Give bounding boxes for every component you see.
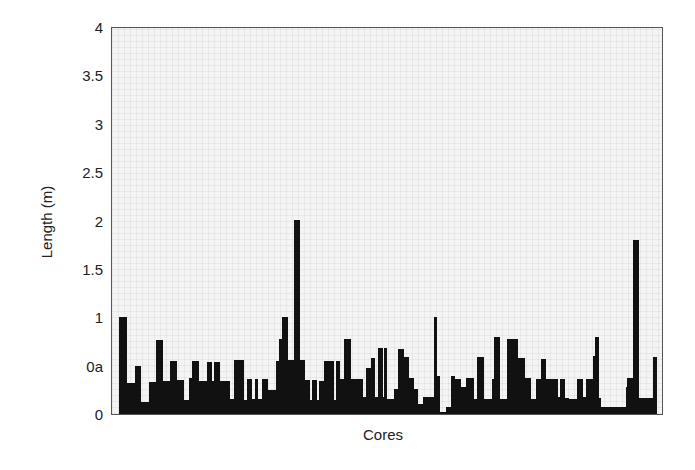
bar bbox=[387, 399, 394, 414]
bar bbox=[268, 390, 276, 414]
bar bbox=[500, 399, 507, 414]
bar bbox=[546, 379, 558, 414]
y-tick-label: 0a bbox=[86, 357, 103, 374]
y-tick-label: 2 bbox=[95, 212, 103, 229]
bar bbox=[601, 407, 626, 414]
bar bbox=[633, 240, 639, 414]
bar bbox=[466, 378, 474, 414]
bar bbox=[344, 339, 351, 414]
bar bbox=[484, 399, 492, 414]
bar bbox=[149, 382, 156, 414]
bar bbox=[141, 402, 149, 414]
bar bbox=[220, 381, 230, 414]
bar bbox=[351, 379, 363, 414]
x-axis-label: Cores bbox=[363, 426, 403, 443]
bar bbox=[163, 381, 170, 414]
y-tick-label: 3 bbox=[95, 115, 103, 132]
bar bbox=[423, 397, 434, 414]
y-tick-label: 2.5 bbox=[82, 164, 103, 181]
bar bbox=[324, 361, 334, 414]
bar bbox=[437, 376, 440, 414]
y-tick-label: 1 bbox=[95, 309, 103, 326]
bar bbox=[199, 381, 207, 414]
bar bbox=[234, 360, 244, 414]
bar bbox=[156, 340, 163, 414]
bar bbox=[518, 358, 525, 414]
y-tick-label: 4 bbox=[95, 19, 103, 36]
bar bbox=[177, 380, 184, 414]
y-tick-label: 3.5 bbox=[82, 67, 103, 84]
bar bbox=[192, 361, 199, 414]
y-tick-label: 1.5 bbox=[82, 260, 103, 277]
bar bbox=[477, 357, 484, 414]
y-tick-label: 0 bbox=[95, 406, 103, 423]
plot-area bbox=[111, 27, 663, 415]
bar bbox=[170, 361, 177, 414]
y-axis-label: Length (m) bbox=[38, 186, 55, 259]
bar bbox=[119, 317, 127, 414]
bar bbox=[653, 357, 657, 414]
bar bbox=[507, 339, 518, 414]
bar bbox=[127, 383, 135, 414]
bar bbox=[569, 399, 577, 414]
bar bbox=[639, 398, 653, 414]
